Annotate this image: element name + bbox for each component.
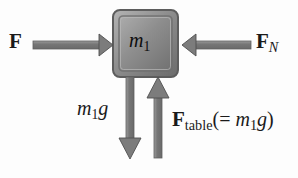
label-table-force: Ftable(= m1g) bbox=[172, 109, 274, 132]
table-force-equals-mass: m bbox=[236, 108, 250, 130]
table-force-arrow bbox=[147, 77, 169, 158]
table-force-symbol: F bbox=[172, 107, 185, 131]
applied-force-arrow bbox=[33, 34, 113, 56]
applied-force-symbol: F bbox=[9, 29, 22, 53]
normal-force-arrow bbox=[182, 34, 251, 56]
label-weight-force: m1g bbox=[77, 98, 108, 121]
weight-force-arrow bbox=[119, 77, 141, 159]
label-mass-block: m1 bbox=[129, 30, 150, 53]
weight-gravity-symbol: g bbox=[98, 97, 108, 119]
table-force-equals-gravity: g bbox=[257, 108, 267, 130]
mass-subscript: 1 bbox=[143, 39, 150, 54]
weight-mass-symbol: m bbox=[77, 97, 91, 119]
table-force-equals-close: ) bbox=[267, 108, 274, 130]
label-normal-force: FN bbox=[256, 31, 278, 54]
normal-force-symbol: F bbox=[256, 29, 269, 53]
normal-force-subscript: N bbox=[269, 39, 279, 55]
table-force-equals-open: (= bbox=[213, 108, 236, 130]
label-applied-force: F bbox=[9, 31, 22, 52]
mass-symbol: m bbox=[129, 29, 143, 51]
table-force-subscript: table bbox=[185, 117, 213, 133]
diagram-canvas bbox=[0, 0, 298, 178]
physics-free-body-diagram: F FN m1 m1g Ftable(= m1g) bbox=[0, 0, 298, 178]
